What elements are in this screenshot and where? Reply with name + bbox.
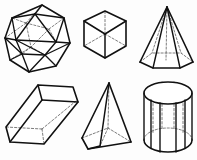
solid-square-pyramid: Square Pyramid — [78, 80, 136, 156]
solid-cube: Cube — [80, 8, 130, 64]
solid-decagonal-prism: Decagonal Prism — [140, 80, 196, 158]
solid-hexagonal-pyramid: Hexagonal Pyramid — [136, 4, 196, 72]
geometric-solids-figure: Icosahedron Cube — [0, 0, 197, 160]
solid-icosahedron: Icosahedron — [2, 2, 76, 76]
solid-rectangular-prism: Rectangular Prism — [4, 80, 82, 156]
